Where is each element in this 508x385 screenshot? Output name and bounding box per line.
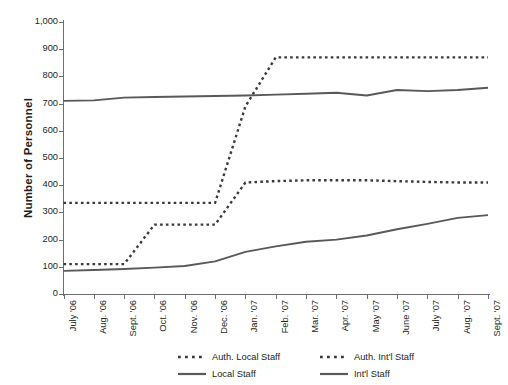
x-tick-mark <box>64 295 65 299</box>
y-tick-mark <box>59 131 63 132</box>
y-tick-mark <box>59 267 63 268</box>
x-tick-mark <box>336 295 337 299</box>
legend-label: Auth. Local Staff <box>212 352 280 362</box>
x-tick-mark <box>458 295 459 299</box>
dotted-line-icon <box>320 352 348 362</box>
solid-line-icon <box>178 369 206 379</box>
dotted-line-icon <box>178 352 206 362</box>
legend-item[interactable]: Local Staff <box>178 366 256 381</box>
y-tick-mark <box>59 240 63 241</box>
legend-label: Local Staff <box>212 369 256 379</box>
series-plot <box>0 0 508 385</box>
legend-item[interactable]: Auth. Int'l Staff <box>320 349 414 364</box>
y-tick-mark <box>59 22 63 23</box>
legend-item[interactable]: Int'l Staff <box>320 366 390 381</box>
x-tick-mark <box>245 295 246 299</box>
series-line <box>64 88 489 101</box>
personnel-line-chart: Number of Personnel 01002003004005006007… <box>0 0 508 385</box>
x-tick-mark <box>185 295 186 299</box>
y-tick-mark <box>59 185 63 186</box>
x-tick-mark <box>306 295 307 299</box>
y-tick-mark <box>59 212 63 213</box>
legend-item[interactable]: Auth. Local Staff <box>178 349 280 364</box>
legend-row: Local StaffInt'l Staff <box>178 366 498 381</box>
x-tick-mark <box>397 295 398 299</box>
y-tick-mark <box>59 158 63 159</box>
series-line <box>64 215 489 271</box>
legend-label: Int'l Staff <box>354 369 390 379</box>
solid-line-icon <box>320 369 348 379</box>
y-tick-mark <box>59 104 63 105</box>
x-tick-mark <box>367 295 368 299</box>
chart-legend: Auth. Local StaffAuth. Int'l StaffLocal … <box>178 349 498 381</box>
y-tick-mark <box>59 76 63 77</box>
legend-row: Auth. Local StaffAuth. Int'l Staff <box>178 349 498 364</box>
y-tick-mark <box>59 294 63 295</box>
x-tick-mark <box>427 295 428 299</box>
series-line <box>64 180 489 264</box>
x-tick-mark <box>124 295 125 299</box>
x-tick-mark <box>276 295 277 299</box>
x-tick-mark <box>94 295 95 299</box>
x-tick-mark <box>215 295 216 299</box>
x-tick-mark <box>488 295 489 299</box>
y-tick-mark <box>59 49 63 50</box>
x-tick-mark <box>154 295 155 299</box>
legend-label: Auth. Int'l Staff <box>354 352 414 362</box>
